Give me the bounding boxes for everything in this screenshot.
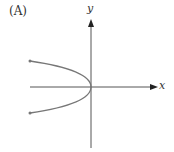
upper-endpoint-dot <box>29 60 32 63</box>
x-axis-arrow-icon <box>150 84 158 90</box>
y-axis-arrow-icon <box>88 19 94 27</box>
plot-area <box>0 0 174 152</box>
lower-endpoint-dot <box>29 112 32 115</box>
figure-canvas: (A) y x <box>0 0 174 152</box>
